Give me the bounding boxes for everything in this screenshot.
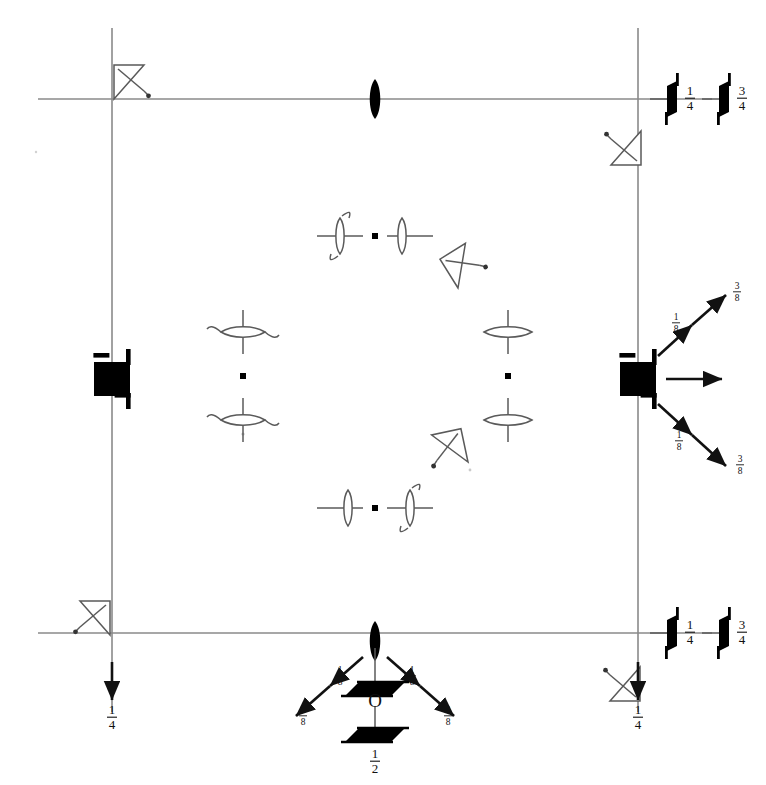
fraction-numerator: 1 <box>687 83 694 98</box>
fraction-denominator: 4 <box>687 98 694 113</box>
fraction-denominator: 8 <box>735 293 740 303</box>
glide-plane-symbol-1 <box>650 73 679 125</box>
fraction-denominator: 8 <box>301 717 306 727</box>
glide-plane-symbol-3 <box>650 607 679 659</box>
corner-symbol-bottom-left <box>73 601 110 635</box>
space-group-diagram: 1 8 3 8 1 8 3 8 <box>0 0 766 785</box>
fan-arrow-down-inner <box>658 404 692 435</box>
corner-symbol-bottom-right <box>603 667 640 701</box>
fraction-denominator: 4 <box>635 717 642 732</box>
fraction-numerator: 1 <box>635 702 642 717</box>
glide-label-1: 1 4 <box>685 83 695 114</box>
glide-label-2: 3 4 <box>737 83 747 114</box>
fraction-denominator: 8 <box>410 677 415 687</box>
interior-symbol-lower-right <box>425 429 468 470</box>
fraction-denominator: 4 <box>109 717 116 732</box>
fraction-denominator: 8 <box>677 442 682 452</box>
fraction-numerator: 3 <box>738 454 743 464</box>
fan-label-up-outer: 3 8 <box>733 281 741 303</box>
origin-height-label: 1 2 <box>370 746 380 777</box>
fraction-numerator: 3 <box>739 83 746 98</box>
interior-symbol-upper-right <box>440 240 489 288</box>
fraction-denominator: 4 <box>739 632 746 647</box>
fan-label-left-inner: 1 8 <box>336 665 344 687</box>
fraction-numerator: 1 <box>338 665 343 675</box>
fraction-denominator: 8 <box>738 466 743 476</box>
fraction-numerator: 1 <box>109 702 116 717</box>
fraction-denominator: 4 <box>739 98 746 113</box>
fraction-numerator: 1 <box>674 312 679 322</box>
glide-plane-symbol-4 <box>702 607 731 659</box>
two-fold-screw-axis-vertical-right <box>484 310 532 442</box>
fraction-numerator: 3 <box>735 281 740 291</box>
two-fold-axis-top-center <box>370 79 381 119</box>
unit-cell-frame <box>38 28 712 712</box>
vector-fan-right-center: 1 8 3 8 1 8 3 8 <box>658 281 744 476</box>
fraction-denominator: 4 <box>687 632 694 647</box>
fan-label-up-inner: 1 8 <box>672 312 680 334</box>
fraction-numerator: 3 <box>739 617 746 632</box>
fan-label-down-inner: 1 8 <box>675 430 683 452</box>
corner-symbol-top-left <box>114 65 151 99</box>
fan-arrow-up-outer <box>692 295 726 325</box>
fraction-numerator: 1 <box>677 430 682 440</box>
fraction-numerator: 1 <box>372 746 379 761</box>
fan-arrow-down-outer <box>692 435 726 466</box>
fraction-denominator: 8 <box>674 324 679 334</box>
height-arrow-bottom-left: 1 4 <box>107 662 117 732</box>
fan-label-down-outer: 3 8 <box>736 454 744 476</box>
glide-label-3: 1 4 <box>685 617 695 648</box>
height-arrow-label-left: 1 4 <box>107 702 117 733</box>
fraction-numerator: 3 <box>301 705 306 715</box>
corner-symbol-top-right <box>604 131 641 165</box>
origin-label: O <box>368 690 382 711</box>
fraction-numerator: 1 <box>687 617 694 632</box>
glide-label-4: 3 4 <box>737 617 747 648</box>
fraction-denominator: 8 <box>338 677 343 687</box>
fraction-numerator: 3 <box>446 705 451 715</box>
fraction-numerator: 1 <box>410 665 415 675</box>
two-fold-screw-axis-horizontal-bottom <box>317 484 433 531</box>
fraction-denominator: 8 <box>446 717 451 727</box>
fan-label-right-outer: 3 8 <box>444 705 452 727</box>
glide-plane-symbol-2 <box>702 73 731 125</box>
fraction-denominator: 2 <box>372 761 379 776</box>
origin-plate-lower <box>341 728 409 742</box>
two-fold-screw-axis-vertical-left <box>207 310 279 442</box>
fan-label-right-inner: 1 8 <box>408 665 416 687</box>
two-fold-screw-axis-horizontal-top <box>317 212 433 259</box>
height-arrow-label-right: 1 4 <box>633 702 643 733</box>
